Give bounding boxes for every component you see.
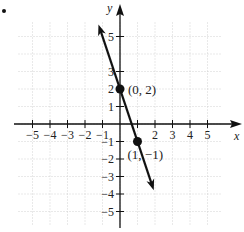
- x-tick-label: −5: [26, 128, 39, 142]
- y-axis-label: y: [106, 1, 113, 15]
- point-marker: [116, 85, 125, 94]
- x-axis-label: x: [233, 129, 240, 143]
- y-tick-label: −5: [101, 205, 114, 219]
- y-tick-label: −3: [101, 170, 114, 184]
- x-tick-label: −4: [44, 128, 57, 142]
- y-tick-label: 2: [108, 82, 114, 96]
- y-tick-label: −1: [101, 135, 114, 149]
- x-tick-label: 4: [187, 128, 193, 142]
- point-label: (1, −1): [128, 147, 164, 162]
- coordinate-plane: −5−4−3−2−123455321−1−2−3−4−5xy(0, 2)(1, …: [0, 0, 244, 232]
- y-tick-label: 1: [108, 100, 114, 114]
- x-tick-label: 2: [152, 128, 158, 142]
- y-tick-label: 5: [108, 30, 114, 44]
- point-marker: [133, 137, 142, 146]
- x-tick-label: −2: [79, 128, 92, 142]
- x-tick-label: 5: [205, 128, 211, 142]
- x-tick-label: −3: [61, 128, 74, 142]
- y-tick-label: −4: [101, 187, 114, 201]
- x-tick-label: 3: [170, 128, 176, 142]
- point-label: (0, 2): [128, 82, 156, 97]
- y-tick-label: −2: [101, 152, 114, 166]
